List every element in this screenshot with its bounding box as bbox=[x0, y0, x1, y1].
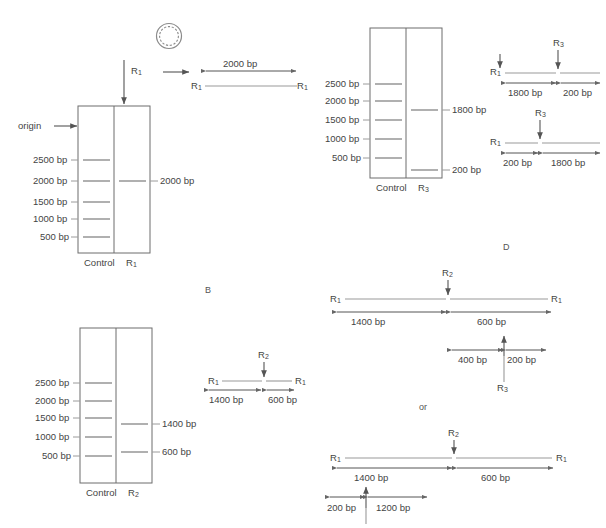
map-b-left-end: R1 bbox=[208, 376, 219, 386]
map-d1-left-end: R1 bbox=[330, 294, 341, 304]
gel-c-band-1800: 1800 bp bbox=[452, 105, 486, 115]
gel-a-ladder-1500: 1500 bp bbox=[33, 197, 67, 207]
gel-c-lane-control: Control bbox=[376, 183, 407, 193]
gel-c-ladder-2500: 2500 bp bbox=[325, 79, 359, 89]
gel-c bbox=[370, 28, 442, 178]
gel-c-band-200: 200 bp bbox=[452, 165, 481, 175]
map-b-seg-600: 600 bp bbox=[268, 395, 297, 405]
restriction-map-b bbox=[209, 381, 294, 390]
circular-plasmid-icon bbox=[157, 24, 182, 49]
gel-a-lane-r1: R1 bbox=[126, 258, 137, 268]
restriction-map-c-bottom bbox=[505, 143, 600, 153]
restriction-map-a bbox=[205, 71, 297, 86]
map-c-top-left-end: R1 bbox=[490, 67, 501, 77]
map-c-top-r3-label: R3 bbox=[553, 38, 564, 48]
map-b-r2-label: R2 bbox=[258, 350, 269, 360]
map-c-bottom-seg-200: 200 bp bbox=[503, 158, 532, 168]
gel-b-band-1400: 1400 bp bbox=[162, 419, 196, 429]
map-d2-r2-label: R2 bbox=[448, 428, 459, 438]
map-d2-sub-200: 200 bp bbox=[327, 503, 356, 513]
panel-label-or: or bbox=[419, 403, 427, 412]
map-d2-left-end: R1 bbox=[330, 453, 341, 463]
gel-b-ladder-1000: 1000 bp bbox=[35, 432, 69, 442]
gel-a-lane-control: Control bbox=[84, 258, 115, 268]
map-d1-r3-label: R3 bbox=[497, 383, 508, 393]
gel-a bbox=[78, 106, 150, 253]
map-b-seg-1400: 1400 bp bbox=[209, 395, 243, 405]
gel-c-ladder-1000: 1000 bp bbox=[325, 134, 359, 144]
panel-label-b: B bbox=[205, 286, 211, 295]
map-d1-seg-600: 600 bp bbox=[477, 317, 506, 327]
map-a-span-label: 2000 bp bbox=[223, 59, 257, 69]
map-d1-right-end: R1 bbox=[551, 294, 562, 304]
gel-b-band-600: 600 bp bbox=[162, 447, 191, 457]
map-d2-right-end: R1 bbox=[556, 453, 567, 463]
gel-c-ladder-2000: 2000 bp bbox=[325, 96, 359, 106]
map-d1-seg-1400: 1400 bp bbox=[351, 317, 385, 327]
gel-c-lane-r3: R3 bbox=[418, 183, 429, 193]
gel-b bbox=[80, 328, 152, 483]
restriction-map-c-top bbox=[500, 54, 600, 83]
gel-a-ladder-1000: 1000 bp bbox=[33, 214, 67, 224]
map-c-top-seg-1800: 1800 bp bbox=[508, 88, 542, 98]
gel-a-ladder-2000: 2000 bp bbox=[33, 176, 67, 186]
map-d1-r2-label: R2 bbox=[442, 268, 453, 278]
gel-b-ladder-2500: 2500 bp bbox=[35, 378, 69, 388]
gel-c-ladder-1500: 1500 bp bbox=[325, 115, 359, 125]
map-d2-seg-600: 600 bp bbox=[481, 473, 510, 483]
gel-b-lane-r2: R2 bbox=[128, 488, 139, 498]
map-a-right-end: R1 bbox=[297, 81, 308, 91]
map-d2-sub-1200: 1200 bp bbox=[376, 503, 410, 513]
gel-c-ladder-500: 500 bp bbox=[332, 153, 361, 163]
gel-b-ladder-1500: 1500 bp bbox=[35, 413, 69, 423]
map-c-bottom-left-end: R1 bbox=[490, 137, 501, 147]
restriction-map-d2 bbox=[337, 458, 553, 468]
panel-label-d: D bbox=[503, 243, 510, 252]
map-d1-sub-200: 200 bp bbox=[507, 355, 536, 365]
map-c-top-seg-200: 200 bp bbox=[563, 88, 592, 98]
map-d1-sub-400: 400 bp bbox=[458, 355, 487, 365]
map-a-left-end: R1 bbox=[191, 81, 202, 91]
origin-label: origin bbox=[18, 121, 41, 131]
map-d2-seg-1400: 1400 bp bbox=[354, 473, 388, 483]
digest-enzyme-label-a: R1 bbox=[131, 66, 142, 76]
gel-b-ladder-500: 500 bp bbox=[42, 451, 71, 461]
gel-a-ladder-2500: 2500 bp bbox=[33, 155, 67, 165]
gel-a-band-2000: 2000 bp bbox=[160, 176, 194, 186]
restriction-map-d1 bbox=[337, 299, 551, 312]
gel-b-ladder-2000: 2000 bp bbox=[35, 396, 69, 406]
gel-a-ladder-500: 500 bp bbox=[40, 232, 69, 242]
gel-b-lane-control: Control bbox=[86, 488, 117, 498]
map-c-bottom-r3-label: R3 bbox=[535, 108, 546, 118]
map-c-bottom-seg-1800: 1800 bp bbox=[551, 158, 585, 168]
map-b-right-end: R1 bbox=[295, 376, 306, 386]
